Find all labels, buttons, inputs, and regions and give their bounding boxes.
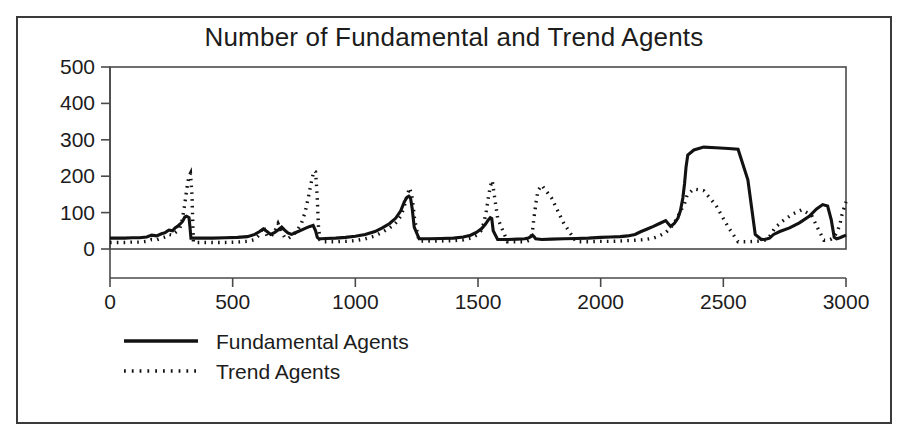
line-chart: 0100200300400500 05001000150020002500300… — [16, 16, 892, 424]
x-tick-label: 2000 — [577, 290, 624, 313]
legend-label: Fundamental Agents — [216, 330, 409, 353]
plot-frame — [110, 67, 846, 249]
y-tick-label: 300 — [60, 128, 95, 151]
y-axis: 0100200300400500 — [60, 55, 110, 278]
chart-legend: Fundamental AgentsTrend Agents — [124, 330, 409, 383]
legend-label: Trend Agents — [216, 360, 340, 383]
x-tick-label: 3000 — [823, 290, 870, 313]
figure-root: Number of Fundamental and Trend Agents 0… — [0, 0, 910, 448]
x-tick-label: 1500 — [455, 290, 502, 313]
y-tick-label: 500 — [60, 55, 95, 78]
y-tick-label: 0 — [83, 237, 95, 260]
series-solid — [110, 147, 846, 239]
y-tick-label: 400 — [60, 91, 95, 114]
x-axis: 050010001500200025003000 — [104, 278, 869, 313]
plot-area-container: 0100200300400500 05001000150020002500300… — [16, 16, 892, 424]
x-tick-label: 1000 — [332, 290, 379, 313]
y-tick-label: 200 — [60, 164, 95, 187]
data-series-group — [110, 147, 846, 242]
x-tick-label: 0 — [104, 290, 116, 313]
x-tick-label: 2500 — [700, 290, 747, 313]
y-tick-label: 100 — [60, 201, 95, 224]
x-tick-label: 500 — [215, 290, 250, 313]
